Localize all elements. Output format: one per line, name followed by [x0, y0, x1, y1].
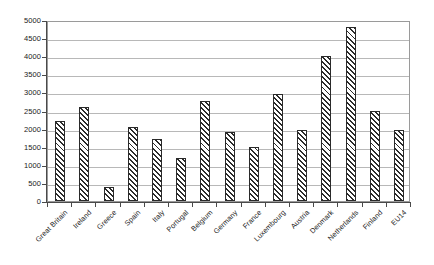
- y-axis-tick-mark: [42, 57, 46, 58]
- y-axis-tick-label: 2500: [3, 108, 41, 116]
- bar: [346, 27, 356, 201]
- y-axis-tick-mark: [42, 130, 46, 131]
- bar: [176, 158, 186, 201]
- bar: [55, 121, 65, 201]
- y-axis-tick-label: 3500: [3, 71, 41, 79]
- y-axis-tick-label: 0: [3, 198, 41, 206]
- y-axis-tick-mark: [42, 184, 46, 185]
- y-axis-tick-mark: [42, 112, 46, 113]
- y-axis-tick-label: 4500: [3, 35, 41, 43]
- bar: [152, 139, 162, 201]
- x-axis-category-label-text: EU14: [389, 208, 408, 227]
- y-axis-tick-mark: [42, 202, 46, 203]
- x-axis-category-label-text: Spain: [122, 208, 142, 228]
- y-axis-tick-labels: 5000450040003500300025002000150010005000: [0, 0, 41, 265]
- bar: [200, 101, 210, 201]
- bar-chart: 5000450040003500300025002000150010005000…: [0, 0, 434, 265]
- y-axis-tick-mark: [42, 93, 46, 94]
- y-axis-tick-label: 5000: [3, 17, 41, 25]
- y-axis-tick-label: 4000: [3, 53, 41, 61]
- y-axis-tick-mark: [42, 75, 46, 76]
- x-axis-category-label-text: France: [240, 208, 263, 231]
- y-axis-tick-label: 1000: [3, 162, 41, 170]
- plot-area: [47, 21, 410, 202]
- bar: [128, 127, 138, 201]
- x-axis-category-label-text: Finland: [361, 208, 385, 232]
- y-axis-tick-label: 2000: [3, 126, 41, 134]
- x-axis-tick-mark: [47, 203, 48, 207]
- y-axis-tick-mark: [42, 21, 46, 22]
- y-axis-tick-label: 3000: [3, 89, 41, 97]
- bar: [321, 56, 331, 201]
- y-axis-tick-mark: [42, 166, 46, 167]
- x-axis-category-label-text: Greece: [94, 208, 117, 231]
- x-axis-category-label-text: Ireland: [71, 208, 93, 230]
- y-axis-tick-label: 1500: [3, 144, 41, 152]
- y-axis-tick-label: 500: [3, 180, 41, 188]
- y-axis-tick-mark: [42, 148, 46, 149]
- y-axis-tick-mark: [42, 39, 46, 40]
- bar: [273, 94, 283, 201]
- x-axis-category-label-text: Italy: [150, 208, 166, 224]
